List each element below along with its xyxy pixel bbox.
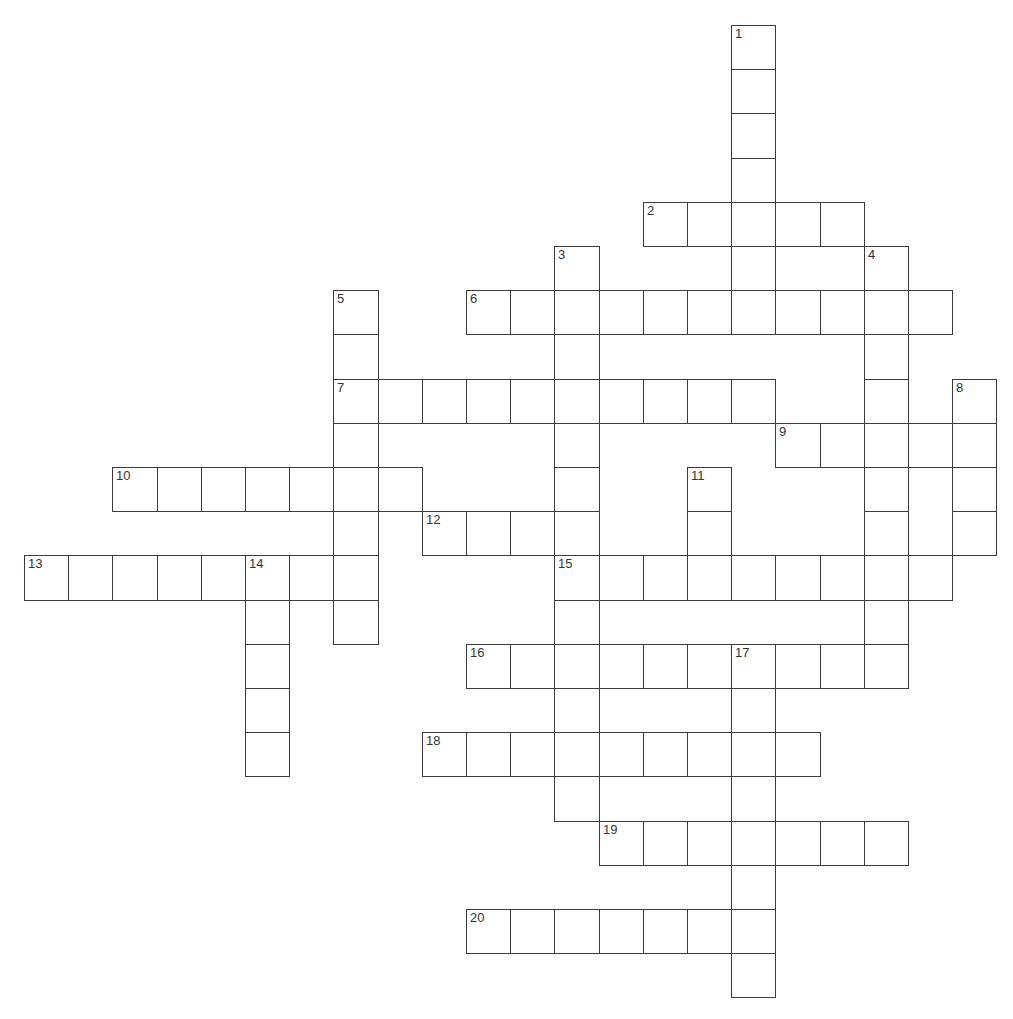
crossword-cell[interactable] <box>554 776 600 822</box>
crossword-cell[interactable] <box>201 467 246 512</box>
crossword-cell[interactable] <box>510 379 555 424</box>
crossword-cell[interactable] <box>643 379 688 424</box>
crossword-cell[interactable]: 19 <box>599 821 644 866</box>
crossword-cell[interactable] <box>466 511 511 556</box>
crossword-cell[interactable]: 16 <box>466 644 511 689</box>
crossword-cell[interactable] <box>157 555 202 601</box>
crossword-cell[interactable] <box>775 732 821 777</box>
crossword-cell[interactable] <box>820 644 865 689</box>
crossword-cell[interactable] <box>687 732 732 777</box>
crossword-cell[interactable] <box>554 290 600 335</box>
crossword-cell[interactable] <box>289 555 334 601</box>
crossword-cell[interactable] <box>554 600 600 645</box>
crossword-cell[interactable] <box>952 423 997 468</box>
crossword-cell[interactable] <box>687 644 732 689</box>
crossword-cell[interactable] <box>245 688 290 733</box>
crossword-cell[interactable] <box>554 511 600 556</box>
crossword-cell[interactable] <box>245 732 290 777</box>
crossword-cell[interactable] <box>864 379 909 424</box>
crossword-cell[interactable] <box>864 511 909 556</box>
crossword-cell[interactable] <box>820 821 865 866</box>
crossword-cell[interactable] <box>908 555 953 601</box>
crossword-cell[interactable] <box>731 555 776 601</box>
crossword-cell[interactable] <box>687 379 732 424</box>
crossword-cell[interactable] <box>245 644 290 689</box>
crossword-cell[interactable] <box>333 423 379 468</box>
crossword-cell[interactable] <box>775 821 821 866</box>
crossword-cell[interactable] <box>952 511 997 556</box>
crossword-cell[interactable] <box>731 379 776 424</box>
crossword-cell[interactable] <box>599 555 644 601</box>
crossword-cell[interactable] <box>820 555 865 601</box>
crossword-cell[interactable] <box>245 600 290 645</box>
crossword-cell[interactable] <box>333 555 379 601</box>
crossword-cell[interactable] <box>599 379 644 424</box>
crossword-cell[interactable] <box>731 246 776 291</box>
crossword-cell[interactable] <box>775 290 821 335</box>
crossword-cell[interactable]: 17 <box>731 644 776 689</box>
crossword-cell[interactable]: 20 <box>466 909 511 954</box>
crossword-cell[interactable]: 3 <box>554 246 600 291</box>
crossword-cell[interactable] <box>687 290 732 335</box>
crossword-cell[interactable] <box>599 909 644 954</box>
crossword-cell[interactable] <box>599 732 644 777</box>
crossword-cell[interactable] <box>687 909 732 954</box>
crossword-cell[interactable] <box>510 511 555 556</box>
crossword-cell[interactable] <box>820 290 865 335</box>
crossword-cell[interactable] <box>643 909 688 954</box>
crossword-cell[interactable]: 9 <box>775 423 821 468</box>
crossword-cell[interactable] <box>731 776 776 822</box>
crossword-cell[interactable] <box>510 290 555 335</box>
crossword-cell[interactable] <box>908 290 953 335</box>
crossword-cell[interactable] <box>864 334 909 380</box>
crossword-cell[interactable] <box>466 732 511 777</box>
crossword-cell[interactable] <box>554 423 600 468</box>
crossword-cell[interactable] <box>333 467 379 512</box>
crossword-cell[interactable] <box>333 511 379 556</box>
crossword-cell[interactable]: 1 <box>731 25 776 70</box>
crossword-cell[interactable] <box>599 644 644 689</box>
crossword-cell[interactable] <box>554 467 600 512</box>
crossword-cell[interactable] <box>554 909 600 954</box>
crossword-cell[interactable] <box>731 953 776 998</box>
crossword-cell[interactable] <box>731 158 776 203</box>
crossword-cell[interactable] <box>908 423 953 468</box>
crossword-cell[interactable] <box>731 865 776 910</box>
crossword-cell[interactable] <box>731 732 776 777</box>
crossword-cell[interactable] <box>731 821 776 866</box>
crossword-cell[interactable] <box>554 732 600 777</box>
crossword-cell[interactable]: 18 <box>422 732 467 777</box>
crossword-cell[interactable] <box>731 202 776 247</box>
crossword-cell[interactable] <box>466 379 511 424</box>
crossword-cell[interactable]: 15 <box>554 555 600 601</box>
crossword-cell[interactable] <box>510 909 555 954</box>
crossword-cell[interactable] <box>864 423 909 468</box>
crossword-cell[interactable] <box>599 290 644 335</box>
crossword-cell[interactable]: 14 <box>245 555 290 601</box>
crossword-cell[interactable] <box>775 644 821 689</box>
crossword-cell[interactable] <box>510 732 555 777</box>
crossword-cell[interactable] <box>643 555 688 601</box>
crossword-cell[interactable]: 2 <box>643 202 688 247</box>
crossword-cell[interactable]: 13 <box>24 555 69 601</box>
crossword-cell[interactable] <box>687 821 732 866</box>
crossword-cell[interactable] <box>378 379 423 424</box>
crossword-cell[interactable] <box>643 644 688 689</box>
crossword-cell[interactable] <box>864 821 909 866</box>
crossword-cell[interactable] <box>643 290 688 335</box>
crossword-cell[interactable] <box>687 202 732 247</box>
crossword-cell[interactable]: 10 <box>112 467 158 512</box>
crossword-cell[interactable] <box>68 555 113 601</box>
crossword-cell[interactable] <box>554 334 600 380</box>
crossword-cell[interactable] <box>775 202 821 247</box>
crossword-cell[interactable] <box>731 113 776 159</box>
crossword-cell[interactable] <box>687 555 732 601</box>
crossword-cell[interactable] <box>333 600 379 645</box>
crossword-cell[interactable] <box>864 600 909 645</box>
crossword-cell[interactable]: 7 <box>333 379 379 424</box>
crossword-cell[interactable] <box>775 555 821 601</box>
crossword-cell[interactable] <box>952 467 997 512</box>
crossword-cell[interactable] <box>245 467 290 512</box>
crossword-cell[interactable] <box>731 909 776 954</box>
crossword-cell[interactable] <box>289 467 334 512</box>
